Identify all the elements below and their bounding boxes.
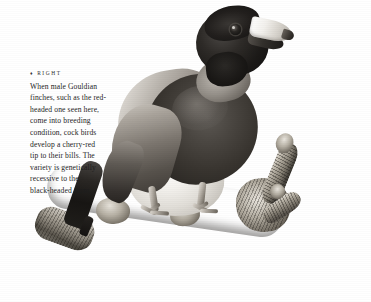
- caption-line: headed one seen here,: [30, 104, 122, 116]
- caption-line: finches, such as the red-: [30, 92, 122, 104]
- caption-line: condition, cock birds: [30, 127, 122, 139]
- caption-body: When male Gouldian finches, such as the …: [30, 81, 122, 196]
- caption-line: tip to their bills. The: [30, 150, 122, 162]
- caption-line: develop a cherry-red: [30, 139, 122, 151]
- caption-block: ♦RIGHT When male Gouldian finches, such …: [30, 69, 122, 196]
- caption-line: come into breeding: [30, 115, 122, 127]
- illustration-page: ♦RIGHT When male Gouldian finches, such …: [0, 0, 371, 302]
- caption-header: ♦RIGHT: [30, 69, 122, 78]
- finch-toe: [200, 209, 218, 214]
- caption-line: black-headed form.: [30, 185, 122, 197]
- caption-header-label: RIGHT: [37, 70, 61, 76]
- caption-line: variety is genetically: [30, 162, 122, 174]
- caption-line: When male Gouldian: [30, 81, 122, 93]
- caption-line: recessive to the: [30, 173, 122, 185]
- finch-eye-glint: [232, 26, 235, 29]
- diamond-bullet-icon: ♦: [30, 70, 34, 78]
